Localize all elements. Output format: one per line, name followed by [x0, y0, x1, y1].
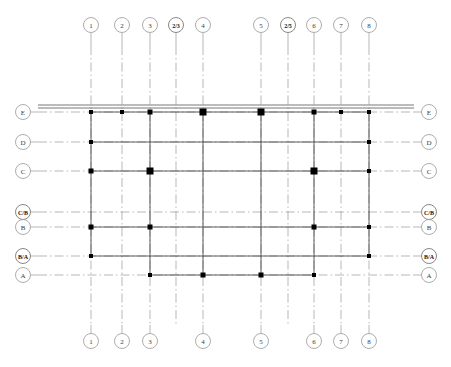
grid-bubble-label: C: [21, 168, 26, 176]
grid-bubble-bottom-8[interactable]: 8: [362, 334, 377, 349]
grid-bubble-label: 5: [259, 22, 263, 30]
grid-bubble-label: 7: [339, 22, 343, 30]
column-marker-6-B[interactable]: [312, 225, 317, 230]
column-marker-8-D[interactable]: [367, 140, 371, 144]
grid-bubble-left-D[interactable]: D: [16, 135, 31, 150]
grid-bubble-label: 2: [120, 22, 124, 30]
column-marker-6-C[interactable]: [311, 168, 318, 175]
grid-bubble-label: 1: [89, 22, 93, 30]
grid-bubble-label: 2: [120, 338, 124, 346]
grid-bubble-label: B/A: [424, 254, 435, 260]
grid-bubble-label: 8: [367, 338, 371, 346]
column-marker-3-A[interactable]: [148, 273, 152, 277]
column-marker-5-E[interactable]: [258, 109, 265, 116]
grid-bubble-label: E: [427, 109, 431, 117]
column-marker-1-C[interactable]: [89, 169, 94, 174]
column-marker-1-B/A[interactable]: [89, 254, 93, 258]
grid-bubble-right-D[interactable]: D: [422, 135, 437, 150]
grid-bubble-bottom-6[interactable]: 6: [307, 334, 322, 349]
grid-bubble-label: 1: [89, 338, 93, 346]
column-marker-6-A[interactable]: [312, 273, 316, 277]
column-grid-plan: 1122332/344552/5667788EEDDCCC/BC/BBBB/AB…: [0, 0, 451, 367]
grid-bubble-top-3[interactable]: 3: [143, 18, 158, 33]
grid-bubble-right-B/A[interactable]: B/A: [422, 249, 437, 264]
grid-bubble-bottom-3[interactable]: 3: [143, 334, 158, 349]
grid-bubble-top-1[interactable]: 1: [84, 18, 99, 33]
grid-bubble-label: 6: [312, 22, 316, 30]
grid-bubble-top-2/5[interactable]: 2/5: [281, 18, 296, 33]
grid-bubble-top-7[interactable]: 7: [334, 18, 349, 33]
grid-bubble-left-B/A[interactable]: B/A: [16, 249, 31, 264]
column-marker-3-C[interactable]: [147, 168, 154, 175]
grid-bubble-label: A: [20, 272, 25, 280]
grid-bubble-left-C[interactable]: C: [16, 164, 31, 179]
column-marker-3-B[interactable]: [148, 225, 153, 230]
grid-bubble-left-E[interactable]: E: [16, 105, 31, 120]
column-marker-7-E[interactable]: [339, 110, 343, 114]
grid-bubble-right-B[interactable]: B: [422, 220, 437, 235]
column-marker-3-E[interactable]: [148, 110, 153, 115]
grid-bubble-label: A: [426, 272, 431, 280]
grid-bubble-label: 4: [201, 338, 205, 346]
grid-bubble-label: B: [427, 224, 432, 232]
grid-bubble-right-A[interactable]: A: [422, 268, 437, 283]
grid-bubble-label: 4: [201, 22, 205, 30]
column-marker-8-C[interactable]: [367, 169, 371, 173]
column-marker-5-A[interactable]: [259, 273, 264, 278]
grid-bubble-label: 6: [312, 338, 316, 346]
grid-bubble-label: 2/3: [172, 23, 180, 29]
column-marker-1-E[interactable]: [89, 110, 93, 114]
grid-bubble-label: B/A: [18, 254, 29, 260]
grid-bubble-top-6[interactable]: 6: [307, 18, 322, 33]
grid-bubble-label: C/B: [424, 210, 434, 216]
grid-bubble-label: 8: [367, 22, 371, 30]
plan-drawing-canvas: 1122332/344552/5667788EEDDCCC/BC/BBBB/AB…: [0, 0, 451, 367]
grid-bubble-right-C/B[interactable]: C/B: [422, 205, 437, 220]
grid-bubble-label: B: [21, 224, 26, 232]
grid-bubble-bottom-2[interactable]: 2: [115, 334, 130, 349]
grid-bubble-top-2/3[interactable]: 2/3: [169, 18, 184, 33]
grid-bubble-bottom-4[interactable]: 4: [196, 334, 211, 349]
column-marker-4-E[interactable]: [200, 109, 207, 116]
grid-bubble-label: 7: [339, 338, 343, 346]
column-marker-2-E[interactable]: [120, 110, 124, 114]
column-marker-8-B[interactable]: [367, 225, 371, 229]
grid-bubble-label: D: [20, 139, 25, 147]
grid-bubble-label: C/B: [18, 210, 28, 216]
grid-bubble-bottom-7[interactable]: 7: [334, 334, 349, 349]
grid-bubble-bottom-1[interactable]: 1: [84, 334, 99, 349]
column-marker-1-D[interactable]: [89, 140, 93, 144]
grid-bubble-label: 3: [148, 338, 152, 346]
grid-bubble-label: 3: [148, 22, 152, 30]
grid-bubble-top-4[interactable]: 4: [196, 18, 211, 33]
column-marker-6-E[interactable]: [312, 110, 317, 115]
grid-bubble-top-2[interactable]: 2: [115, 18, 130, 33]
column-marker-8-B/A[interactable]: [367, 254, 371, 258]
grid-bubble-label: D: [426, 139, 431, 147]
column-marker-8-E[interactable]: [367, 110, 371, 114]
column-marker-4-A[interactable]: [201, 273, 206, 278]
grid-bubble-left-B[interactable]: B: [16, 220, 31, 235]
grid-bubble-left-A[interactable]: A: [16, 268, 31, 283]
grid-bubble-right-E[interactable]: E: [422, 105, 437, 120]
grid-bubble-left-C/B[interactable]: C/B: [16, 205, 31, 220]
grid-bubble-top-8[interactable]: 8: [362, 18, 377, 33]
grid-bubble-label: 2/5: [284, 23, 292, 29]
grid-bubble-label: E: [21, 109, 25, 117]
grid-bubble-top-5[interactable]: 5: [254, 18, 269, 33]
grid-bubble-right-C[interactable]: C: [422, 164, 437, 179]
column-marker-1-B[interactable]: [89, 225, 94, 230]
grid-bubble-label: C: [427, 168, 432, 176]
grid-bubble-label: 5: [259, 338, 263, 346]
grid-bubble-bottom-5[interactable]: 5: [254, 334, 269, 349]
